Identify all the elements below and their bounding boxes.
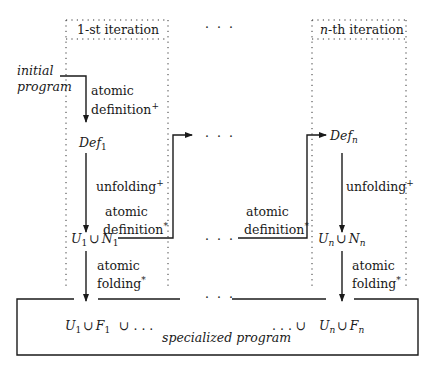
n-symbol: N (349, 231, 360, 246)
specialization-strategy-diagram: 1-st iteration n-th iteration · · · init… (0, 0, 431, 372)
union-symbol: ∪ (335, 318, 349, 333)
step-unfolding-plus-1: unfolding+ (96, 176, 164, 194)
step-sup: * (141, 275, 146, 285)
step-label: definition (244, 222, 304, 237)
initial-program-label-line2: program (17, 79, 72, 94)
step-atomic-folding-star-n-line1: atomic (352, 258, 395, 273)
def-subscript: 1 (101, 142, 107, 152)
union-symbol: ∪ (81, 318, 95, 333)
step-sup: * (163, 221, 168, 231)
un-union-fn: Un∪Fn (319, 318, 364, 338)
header-ellipsis: · · · (205, 20, 235, 35)
step-label: folding (97, 276, 141, 291)
n-symbol: N (102, 231, 113, 246)
step-sup: + (151, 101, 159, 111)
u-symbol: U (318, 231, 329, 246)
def-symbol: Def (79, 135, 101, 150)
iteration-1-header: 1-st iteration (77, 22, 159, 37)
step-label: unfolding (346, 179, 406, 194)
u1-union-f1: U1∪F1 (65, 318, 110, 338)
step-atomic-folding-star-1-line1: atomic (97, 258, 140, 273)
iteration-n-index: n (320, 22, 328, 37)
step-sup: + (406, 178, 414, 188)
un-union-nn: Un∪Nn (318, 231, 366, 251)
step-sup: * (304, 221, 309, 231)
def-n: Defn (330, 128, 358, 148)
middle-ellipsis-lower: · · · (205, 232, 235, 247)
u-symbol: U (71, 231, 82, 246)
def-symbol: Def (330, 128, 352, 143)
step-unfolding-plus-n: unfolding+ (346, 176, 414, 194)
step-atomic-folding-star-1-line2: folding* (97, 273, 146, 291)
u-symbol: U (65, 318, 76, 333)
union-symbol: ∪ (334, 231, 348, 246)
initial-program-label-line1: initial (17, 63, 54, 78)
n-subscript: n (360, 238, 366, 248)
middle-ellipsis-top: · · · (205, 129, 235, 144)
f-subscript: 1 (104, 325, 110, 335)
step-atomic-definition-star-n-line1: atomic (246, 204, 289, 219)
step-atomic-definition-star-1-line1: atomic (105, 204, 148, 219)
step-atomic-definition-plus-line1: atomic (91, 83, 134, 98)
union-ellipsis-right: ∪ . . . (119, 318, 153, 333)
specialized-program-label: specialized program (162, 330, 291, 345)
step-sup: * (396, 275, 401, 285)
step-sup: + (156, 178, 164, 188)
def-1: Def1 (79, 135, 107, 155)
step-atomic-folding-star-n-line2: folding* (352, 273, 401, 291)
step-label: folding (352, 276, 396, 291)
u-symbol: U (319, 318, 330, 333)
step-label: definition (91, 102, 151, 117)
f-subscript: n (359, 325, 365, 335)
step-atomic-definition-star-n-line2: definition* (244, 219, 309, 237)
iteration-n-header: n-th iteration (320, 22, 404, 37)
middle-ellipsis-bottom: · · · (205, 290, 235, 305)
step-atomic-definition-plus-line2: definition+ (91, 99, 159, 117)
step-label: unfolding (96, 179, 156, 194)
f-symbol: F (350, 318, 359, 333)
iteration-n-header-text: -th iteration (328, 22, 404, 37)
n-subscript: 1 (113, 238, 119, 248)
u1-union-n1: U1∪N1 (71, 231, 118, 251)
def-subscript: n (352, 135, 358, 145)
union-symbol: ∪ (87, 231, 101, 246)
